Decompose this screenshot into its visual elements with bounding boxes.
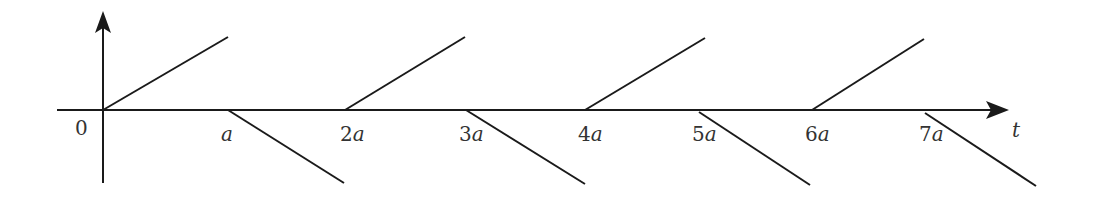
y-axis [95,11,111,183]
segment-4-up [585,38,705,110]
tick-label-a: a [221,122,233,146]
tick-label-6a: 6a [805,122,830,146]
tick-label-3a: 3a [459,122,484,146]
segment-3-down [466,110,585,184]
sawtooth-diagram: 0 a 2a 3a 4a 5a 6a 7a t [0,0,1106,205]
tick-label-2a: 2a [340,122,365,146]
tick-label-5a: 5a [692,122,717,146]
tick-label-7a: 7a [919,122,944,146]
segment-0-up [103,37,228,110]
x-axis-label: t [1012,118,1021,142]
tick-label-4a: 4a [578,122,603,146]
origin-label: 0 [75,116,88,140]
signal-segments [103,37,1036,186]
segment-2-up [345,37,465,110]
segment-6-up [812,39,924,110]
segment-1-down [228,110,344,183]
x-axis [57,101,1009,119]
